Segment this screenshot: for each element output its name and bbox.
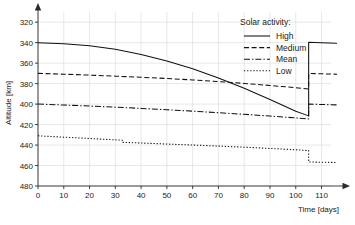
x-tick-label: 50 (162, 191, 171, 200)
y-tick-label: 320 (20, 18, 34, 27)
series-line-low (38, 136, 337, 163)
y-axis-ticks: 480460440420400380360340320 (20, 18, 38, 191)
x-tick-label: 10 (59, 191, 68, 200)
x-tick-label: 100 (289, 191, 303, 200)
x-tick-label: 60 (188, 191, 197, 200)
x-tick-label: 90 (266, 191, 275, 200)
x-tick-label: 40 (137, 191, 146, 200)
y-tick-label: 480 (20, 182, 34, 191)
y-tick-label: 460 (20, 162, 34, 171)
y-axis-arrow-icon (35, 3, 41, 11)
series-line-medium (38, 73, 337, 89)
y-tick-label: 380 (20, 80, 34, 89)
altitude-decay-chart: 480460440420400380360340320 010203040506… (0, 0, 355, 225)
y-tick-label: 360 (20, 59, 34, 68)
x-axis-title: Time [days] (298, 205, 339, 214)
x-tick-label: 0 (36, 191, 41, 200)
legend-label-mean: Mean (276, 54, 298, 64)
series-line-mean (38, 104, 337, 119)
legend-label-low: Low (276, 66, 292, 76)
x-tick-label: 30 (111, 191, 120, 200)
x-axis-ticks: 0102030405060708090100110 (36, 186, 329, 200)
legend-title: Solar activity: (240, 17, 291, 27)
legend: Solar activity: HighMediumMeanLow (240, 17, 306, 76)
x-tick-label: 70 (214, 191, 223, 200)
legend-label-medium: Medium (276, 43, 306, 53)
x-tick-label: 110 (315, 191, 328, 200)
x-tick-label: 20 (85, 191, 94, 200)
legend-entries: HighMediumMeanLow (244, 31, 306, 76)
y-tick-label: 420 (20, 121, 34, 130)
x-axis-arrow-icon (343, 183, 351, 189)
legend-label-high: High (276, 31, 294, 41)
x-tick-label: 80 (240, 191, 249, 200)
chart-canvas: 480460440420400380360340320 010203040506… (0, 0, 355, 225)
y-tick-label: 440 (20, 141, 34, 150)
y-axis-title: Altitude [km] (4, 81, 13, 125)
y-tick-label: 400 (20, 100, 34, 109)
y-tick-label: 340 (20, 39, 34, 48)
